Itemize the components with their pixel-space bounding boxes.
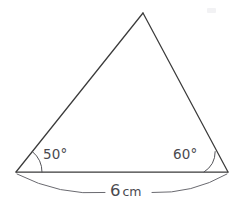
geometry-canvas [0,0,244,211]
angle-label-left: 50° [43,148,68,162]
angle-arc-left [33,152,42,172]
triangle-figure: 50° 60° 6cm [0,0,244,211]
dimension-arc-left-segment [17,174,105,193]
base-length-label: 6cm [110,183,142,200]
base-length-number: 6 [110,181,121,200]
dimension-arc-right-segment [152,174,227,193]
base-length-unit: cm [123,184,142,199]
angle-label-right: 60° [173,148,198,162]
triangle-left-side [16,13,143,172]
scan-artifact [207,8,216,13]
angle-arc-right [204,152,215,172]
